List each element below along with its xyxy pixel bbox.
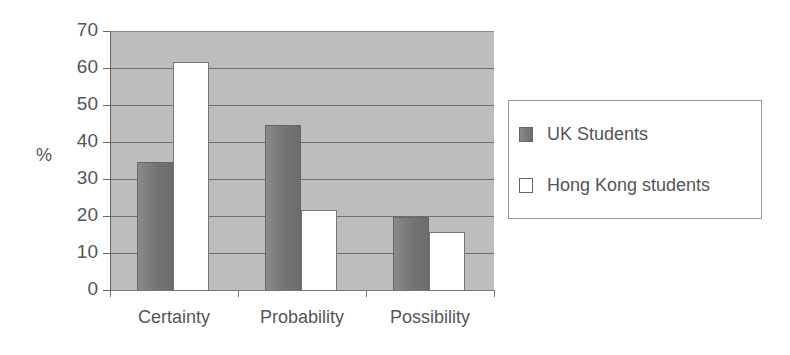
y-tick-label: 30 bbox=[58, 168, 98, 188]
y-tick-label: 20 bbox=[58, 205, 98, 225]
y-tick-label: 10 bbox=[58, 242, 98, 262]
legend-label: Hong Kong students bbox=[547, 175, 710, 196]
y-tick-label: 40 bbox=[58, 131, 98, 151]
bar-hk-possibility bbox=[429, 232, 465, 291]
x-tick-label: Possibility bbox=[366, 307, 494, 328]
bar-hk-probability bbox=[301, 210, 337, 291]
legend-item-hk: Hong Kong students bbox=[519, 175, 710, 196]
bar-hk-certainty bbox=[173, 62, 209, 291]
uk-swatch-icon bbox=[519, 127, 533, 142]
y-tick-label: 60 bbox=[58, 57, 98, 77]
legend-item-uk: UK Students bbox=[519, 124, 648, 145]
x-axis-line bbox=[110, 290, 494, 291]
legend: UK Students Hong Kong students bbox=[508, 100, 762, 219]
gridline bbox=[111, 105, 494, 106]
plot-area bbox=[110, 31, 494, 291]
hk-swatch-icon bbox=[519, 178, 533, 193]
x-tick-label: Probability bbox=[238, 307, 366, 328]
y-axis-title: % bbox=[36, 145, 52, 166]
x-tick bbox=[494, 290, 495, 297]
x-tick bbox=[110, 290, 111, 297]
y-tick-label: 70 bbox=[58, 20, 98, 40]
x-tick bbox=[366, 290, 367, 297]
bar-uk-possibility bbox=[393, 217, 429, 291]
y-tick-label: 50 bbox=[58, 94, 98, 114]
bar-uk-probability bbox=[265, 125, 301, 292]
x-tick bbox=[238, 290, 239, 297]
gridline bbox=[111, 142, 494, 143]
x-tick-label: Certainty bbox=[110, 307, 238, 328]
bar-uk-certainty bbox=[137, 162, 173, 292]
y-tick-label: 0 bbox=[58, 279, 98, 299]
gridline bbox=[111, 68, 494, 69]
legend-label: UK Students bbox=[547, 124, 648, 145]
